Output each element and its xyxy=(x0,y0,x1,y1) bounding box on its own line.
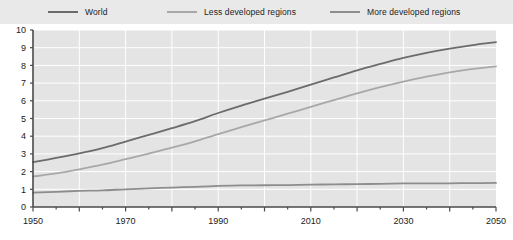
legend-entry-world[interactable]: World xyxy=(48,0,108,24)
legend-entry-less-developed-regions[interactable]: Less developed regions xyxy=(167,0,296,24)
plot-area-wrapper: 109876543210195019701990201020302050 xyxy=(0,24,513,240)
y-axis-tick-label: 10 xyxy=(16,25,26,35)
legend-label: Less developed regions xyxy=(204,7,296,17)
y-axis-tick-label: 7 xyxy=(21,78,26,88)
y-axis-tick-label: 9 xyxy=(21,43,26,53)
y-axis-tick-label: 8 xyxy=(21,61,26,71)
x-axis-tick-label: 2050 xyxy=(486,216,506,226)
x-axis-tick-label: 2010 xyxy=(301,216,321,226)
legend-label: More developed regions xyxy=(367,7,460,17)
legend-label: World xyxy=(85,7,108,17)
chart-legend: World Less developed regions More develo… xyxy=(0,0,513,24)
legend-entry-more-developed-regions[interactable]: More developed regions xyxy=(330,0,460,24)
x-axis-tick-label: 1990 xyxy=(208,216,228,226)
y-axis-tick-label: 3 xyxy=(21,149,26,159)
y-axis-tick-label: 6 xyxy=(21,96,26,106)
population-projection-chart: World Less developed regions More develo… xyxy=(0,0,513,240)
y-axis-tick-label: 1 xyxy=(21,185,26,195)
chart-plot: 109876543210195019701990201020302050 xyxy=(0,24,513,240)
line-swatch-icon xyxy=(330,11,360,13)
line-swatch-icon xyxy=(48,11,78,13)
y-axis-tick-label: 5 xyxy=(21,114,26,124)
line-swatch-icon xyxy=(167,11,197,13)
y-axis-tick-label: 4 xyxy=(21,131,26,141)
y-axis-tick-label: 0 xyxy=(21,202,26,212)
x-axis-tick-label: 1950 xyxy=(23,216,43,226)
x-axis-tick-label: 2030 xyxy=(393,216,413,226)
x-axis-tick-label: 1970 xyxy=(116,216,136,226)
y-axis-tick-label: 2 xyxy=(21,167,26,177)
